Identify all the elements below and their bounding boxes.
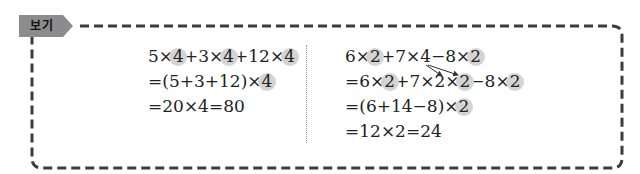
highlighted-number: 2 [510,69,521,94]
highlighted-number: 2 [459,94,470,119]
left-line-1: 5×4+3×4+12×4 [148,44,295,69]
right-line-1: 6×2+7×4−8×2 [345,44,520,69]
text: =20×4=80 [148,96,245,116]
highlighted-number: 4 [223,44,234,69]
text: =(5+3+12)× [148,71,262,91]
highlighted-number: 4 [262,69,273,94]
highlighted-number: 4 [284,44,295,69]
left-example: 5×4+3×4+12×4 =(5+3+12)×4 =20×4=80 [148,44,295,119]
highlighted-number: 4 [173,44,184,69]
highlighted-number: 2 [460,69,471,94]
text: =6× [345,71,384,91]
text: +3× [184,46,223,66]
text: −8× [470,71,509,91]
text: +12× [234,46,284,66]
example-box-frame [0,0,640,174]
highlighted-number: 2 [384,69,395,94]
text: =12×2=24 [345,121,442,141]
right-line-2: =6×2+7×2×2−8×2 [345,69,520,94]
text: =(6+14−8)× [345,96,459,116]
left-line-3: =20×4=80 [148,94,295,119]
highlighted-number: 2 [470,44,481,69]
highlighted-number: 2 [370,44,381,69]
right-example: 6×2+7×4−8×2 =6×2+7×2×2−8×2 =(6+14−8)×2 =… [345,44,520,144]
left-line-2: =(5+3+12)×4 [148,69,295,94]
text: +7×2× [395,71,459,91]
column-divider [306,45,307,143]
right-line-4: =12×2=24 [345,119,520,144]
text: +7×4−8× [381,46,470,66]
right-line-3: =(6+14−8)×2 [345,94,520,119]
example-tag-label: 보기 [19,15,65,37]
